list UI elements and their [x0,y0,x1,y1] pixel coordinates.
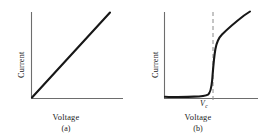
threshold-voltage-label: Vc [200,99,207,108]
threshold-subscript: c [205,103,207,109]
x-axis-label-a: Voltage [0,113,132,122]
panel-caption-b: (b) [132,124,264,133]
plot-panel-a: Current Voltage (a) [0,0,132,137]
panel-caption-a: (a) [0,124,132,133]
figure-root: Current Voltage (a) Current Vc Voltage (… [0,0,264,137]
y-axis-label-b: Current [151,52,160,78]
data-curve-ohmic [32,13,110,98]
y-axis-label-a: Current [17,52,26,78]
x-axis-label-b: Voltage [132,113,264,122]
plot-panel-b: Current Vc Voltage (b) [132,0,264,137]
data-curve-nonohmic [165,12,250,98]
